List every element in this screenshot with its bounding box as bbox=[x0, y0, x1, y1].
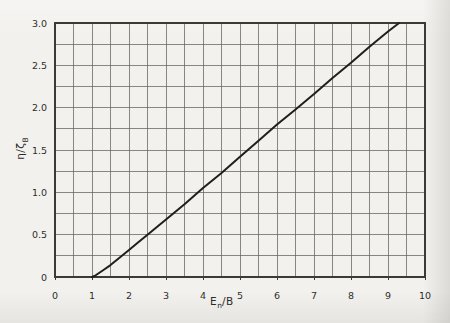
x-tick-label: 9 bbox=[385, 290, 391, 301]
x-tick-label: 5 bbox=[237, 290, 243, 301]
y-axis-label-base: η/ζ bbox=[14, 142, 26, 159]
x-tick-label: 8 bbox=[348, 290, 354, 301]
y-tick-label: 0 bbox=[41, 272, 47, 283]
x-tick-label: 6 bbox=[274, 290, 280, 301]
y-axis-label-subscript: B bbox=[21, 137, 30, 142]
x-tick-label: 1 bbox=[89, 290, 95, 301]
y-tick-label: 2.0 bbox=[32, 102, 47, 113]
x-tick-label: 0 bbox=[52, 290, 58, 301]
x-tick-label: 3 bbox=[163, 290, 169, 301]
y-tick-label: 1.5 bbox=[32, 145, 47, 156]
y-tick-label: 2.5 bbox=[32, 60, 47, 71]
x-tick-label: 4 bbox=[200, 290, 206, 301]
figure-scan: 01234567891000.51.01.52.02.53.0 En/B η/ζ… bbox=[0, 0, 450, 323]
x-tick-label: 10 bbox=[419, 290, 431, 301]
y-axis-label: η/ζB bbox=[14, 113, 29, 185]
y-tick-label: 1.0 bbox=[32, 187, 47, 198]
x-axis-label: En/B bbox=[210, 295, 234, 310]
y-tick-label: 0.5 bbox=[32, 229, 47, 240]
x-axis-label-rest: /B bbox=[222, 295, 234, 307]
plot-area: 01234567891000.51.01.52.02.53.0 bbox=[0, 0, 450, 323]
x-tick-label: 7 bbox=[311, 290, 317, 301]
x-tick-label: 2 bbox=[126, 290, 132, 301]
y-tick-label: 3.0 bbox=[32, 18, 47, 29]
